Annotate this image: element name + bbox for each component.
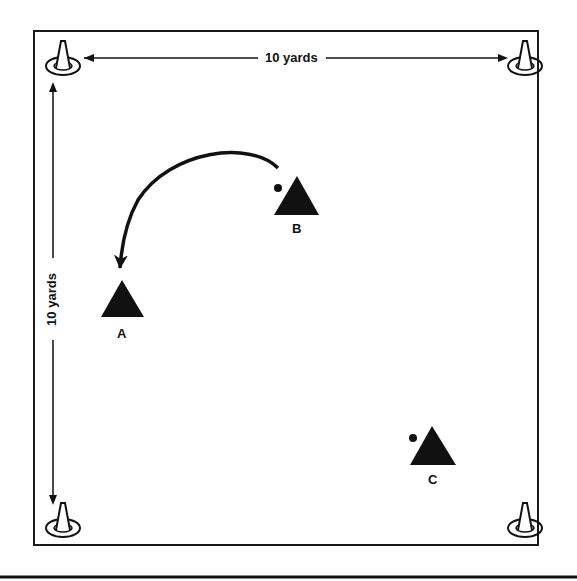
cone-icon <box>46 41 80 75</box>
cone-icon <box>46 503 80 537</box>
player-a-label: A <box>117 327 126 340</box>
player-a-triangle-icon <box>101 280 144 317</box>
player-c-triangle-icon <box>410 426 456 465</box>
cone-icon <box>508 503 542 537</box>
field-border <box>34 31 538 545</box>
cone-icon <box>508 41 542 75</box>
ball-icon <box>409 434 417 442</box>
player-c-label: C <box>428 473 437 486</box>
player-b-triangle-icon <box>274 176 319 215</box>
drill-diagram <box>0 0 577 581</box>
width-dimension-label: 10 yards <box>262 51 321 64</box>
height-dimension-label: 10 yards <box>45 270 58 329</box>
pass-arrow <box>120 153 278 268</box>
player-b-label: B <box>292 222 301 235</box>
ball-icon <box>274 184 282 192</box>
